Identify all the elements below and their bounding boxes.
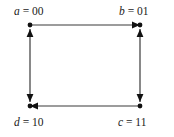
edge-a-to-b bbox=[30, 22, 140, 29]
node-d-value: 10 bbox=[32, 116, 44, 128]
node-a-label: a = 00 bbox=[14, 6, 44, 18]
edge-c-to-d bbox=[30, 103, 140, 110]
edge-b-c-arrowhead-down bbox=[137, 94, 144, 102]
node-b-equals: = bbox=[125, 5, 137, 17]
node-c-label: c = 11 bbox=[118, 117, 146, 129]
node-a-value: 00 bbox=[32, 5, 44, 17]
edge-a-d-arrowhead-down bbox=[27, 94, 34, 102]
figure-canvas: a = 00 b = 01 c = 11 d = 10 bbox=[0, 0, 174, 137]
node-a-equals: = bbox=[20, 5, 32, 17]
node-d-label: d = 10 bbox=[14, 117, 44, 129]
edge-b-c-arrowhead-up bbox=[137, 29, 144, 37]
node-a-dot bbox=[28, 23, 33, 28]
node-c-equals: = bbox=[123, 116, 135, 128]
node-c-dot bbox=[138, 104, 143, 109]
node-b-label: b = 01 bbox=[119, 6, 149, 18]
edge-b-c-bidirectional bbox=[137, 29, 144, 102]
node-c-value: 11 bbox=[135, 116, 146, 128]
node-d-equals: = bbox=[20, 116, 32, 128]
node-d-dot bbox=[28, 104, 33, 109]
node-b-value: 01 bbox=[137, 5, 149, 17]
edge-a-d-arrowhead-up bbox=[27, 29, 34, 37]
node-b-dot bbox=[138, 23, 143, 28]
edge-a-d-bidirectional bbox=[27, 29, 34, 102]
